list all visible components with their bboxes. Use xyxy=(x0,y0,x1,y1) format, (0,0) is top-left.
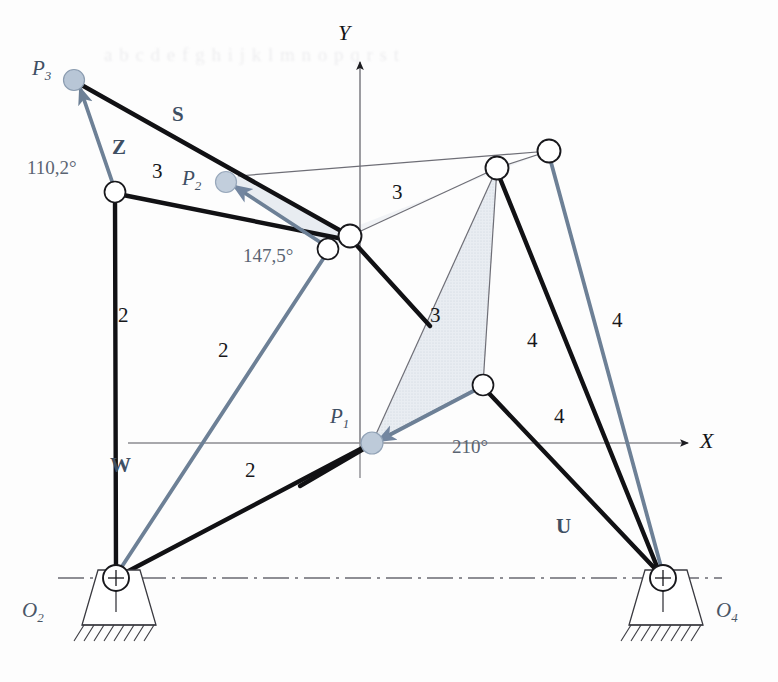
pivot-subscript: 2 xyxy=(37,610,44,625)
blue-links xyxy=(80,88,663,574)
angle-label-210: 210° xyxy=(452,437,488,456)
revolute-joints xyxy=(105,140,561,396)
hatching xyxy=(621,625,703,641)
link-coupler-black-center-down xyxy=(350,238,430,326)
link-number-label: 2 xyxy=(118,305,129,326)
point-subscript: 2 xyxy=(195,178,202,193)
link-4-black-topnode-to-o4 xyxy=(497,171,660,574)
ground-pivot-o4[interactable] xyxy=(621,565,703,641)
point-name: P xyxy=(32,56,45,80)
link-number-label: 2 xyxy=(218,340,229,361)
precision-point-label-p2: P2 xyxy=(182,168,201,192)
pivot-name: O xyxy=(716,598,731,622)
ground-pivot-label-o2: O2 xyxy=(22,600,44,624)
precision-point-p1[interactable] xyxy=(361,432,383,454)
link-number-label: 3 xyxy=(152,161,163,182)
joint-circle[interactable] xyxy=(486,157,509,180)
link-4-black-lowjoint-to-o4 xyxy=(484,388,661,575)
joint-circle[interactable] xyxy=(339,225,362,248)
vector-label-S: S xyxy=(172,104,184,125)
link-number-label: 4 xyxy=(527,330,538,351)
precision-point-p3[interactable] xyxy=(64,70,85,91)
link-number-label: 3 xyxy=(392,182,403,203)
precision-point-label-p1: P1 xyxy=(330,406,349,430)
pivot-subscript: 4 xyxy=(731,610,738,625)
link-number-label: 2 xyxy=(245,460,256,481)
y-axis-label: Y xyxy=(338,22,350,44)
linkage-svg xyxy=(0,0,778,682)
point-name: P xyxy=(182,166,195,190)
pivot-name: O xyxy=(22,598,37,622)
link-number-label: 4 xyxy=(554,406,565,427)
hatching xyxy=(74,625,156,641)
precision-point-label-p3: P3 xyxy=(32,58,51,82)
angle-label-110: 110,2° xyxy=(27,158,77,177)
ground-pivot-o2[interactable] xyxy=(74,565,156,641)
x-axis-label: X xyxy=(700,430,713,452)
joint-circle[interactable] xyxy=(318,239,339,260)
link-2-blue-o2-to-joint xyxy=(117,253,327,574)
vector-label-W: W xyxy=(110,455,131,476)
angle-label-147: 147,5° xyxy=(243,246,293,265)
joint-circle[interactable] xyxy=(538,140,561,163)
link-black-p1-to-left xyxy=(300,444,372,486)
link-number-label: 3 xyxy=(430,305,441,326)
link-W-black-vertical xyxy=(115,196,116,574)
ground-pivot-label-o4: O4 xyxy=(716,600,738,624)
vector-label-U: U xyxy=(556,516,571,537)
diagram-canvas: a b c d e f g h i j k l m n o p q r s t xyxy=(0,0,778,682)
precision-point-p2[interactable] xyxy=(216,172,237,193)
joint-circle[interactable] xyxy=(473,375,494,396)
joint-circle[interactable] xyxy=(105,182,126,203)
point-subscript: 3 xyxy=(45,68,52,83)
vector-label-Z: Z xyxy=(112,137,126,158)
point-name: P xyxy=(330,404,343,428)
precision-point-markers xyxy=(64,70,384,455)
link-4-blue-topright-to-o4 xyxy=(549,155,663,574)
link-number-label: 4 xyxy=(612,310,623,331)
point-subscript: 1 xyxy=(343,416,350,431)
